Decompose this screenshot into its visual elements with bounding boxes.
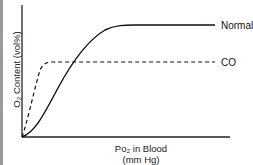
x-axis-label-line2: (mm Hg): [96, 154, 186, 165]
y-axis-label: O₂ Content (vol%): [11, 25, 22, 115]
co-label: CO: [221, 57, 236, 68]
normal-curve: [22, 25, 215, 137]
x-axis-label-line1: Po₂ in Blood: [96, 143, 186, 154]
chart-plot: [0, 0, 253, 165]
x-axis-label: Po₂ in Blood (mm Hg): [96, 143, 186, 165]
co-curve: [22, 62, 215, 137]
normal-label: Normal: [221, 20, 253, 31]
